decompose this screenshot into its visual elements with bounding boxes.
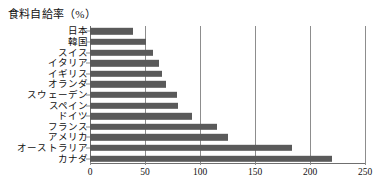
bar-row: スイス <box>0 47 382 58</box>
bar-row: スウェーデン <box>0 90 382 101</box>
category-label-korea: 韓国 <box>68 37 88 47</box>
bar-row: アメリカ <box>0 132 382 143</box>
bar-row: オーストラリア <box>0 143 382 154</box>
food-self-sufficiency-bar-chart: 食料自給率（%） 日本 韓国 スイス イタリア <box>0 0 382 195</box>
category-label-netherlands: オランダ <box>48 79 88 89</box>
x-tick-label-200: 200 <box>303 167 317 178</box>
bar-switzerland <box>90 49 153 55</box>
bar-spain <box>90 102 178 108</box>
bar-france <box>90 124 217 130</box>
bar-row: イギリス <box>0 68 382 79</box>
bar-rows: 日本 韓国 スイス イタリア イギリス オランダ <box>0 26 382 164</box>
bar-italy <box>90 60 159 66</box>
category-label-france: フランス <box>48 122 88 132</box>
x-tick-label-0: 0 <box>88 167 93 178</box>
category-label-usa: アメリカ <box>48 132 88 142</box>
x-tick-mark-250 <box>365 162 366 165</box>
bar-usa <box>90 134 228 140</box>
bar-row: スペイン <box>0 100 382 111</box>
x-tick-mark-100 <box>200 162 201 165</box>
x-tick-mark-0 <box>90 162 91 165</box>
category-label-canada: カナダ <box>58 154 88 164</box>
bar-netherlands <box>90 81 166 87</box>
category-label-italy: イタリア <box>48 58 88 68</box>
bar-row: イタリア <box>0 58 382 69</box>
bar-row: カナダ <box>0 153 382 164</box>
category-label-australia: オーストラリア <box>17 143 88 153</box>
bar-uk <box>90 71 162 77</box>
bar-australia <box>90 145 292 151</box>
category-label-switzerland: スイス <box>58 48 88 58</box>
x-tick-label-100: 100 <box>193 167 207 178</box>
x-tick-mark-150 <box>255 162 256 165</box>
bar-japan <box>90 28 133 34</box>
category-label-spain: スペイン <box>49 101 88 111</box>
x-tick-label-150: 150 <box>248 167 262 178</box>
x-tick-label-50: 50 <box>140 167 150 178</box>
x-axis-tick-labels: 0 50 100 150 200 250 <box>0 165 382 181</box>
x-tick-mark-200 <box>310 162 311 165</box>
x-tick-mark-50 <box>145 162 146 165</box>
category-label-japan: 日本 <box>68 26 88 36</box>
bar-germany <box>90 113 192 119</box>
category-label-germany: ドイツ <box>58 111 88 121</box>
bar-row: ドイツ <box>0 111 382 122</box>
chart-title: 食料自給率（%） <box>8 8 96 21</box>
bar-row: 韓国 <box>0 37 382 48</box>
bar-canada <box>90 155 332 161</box>
category-label-uk: イギリス <box>48 69 88 79</box>
bar-sweden <box>90 92 177 98</box>
bar-row: 日本 <box>0 26 382 37</box>
bar-row: フランス <box>0 121 382 132</box>
bar-korea <box>90 39 146 45</box>
bar-row: オランダ <box>0 79 382 90</box>
category-label-sweden: スウェーデン <box>27 90 88 100</box>
x-tick-label-250: 250 <box>358 167 372 178</box>
